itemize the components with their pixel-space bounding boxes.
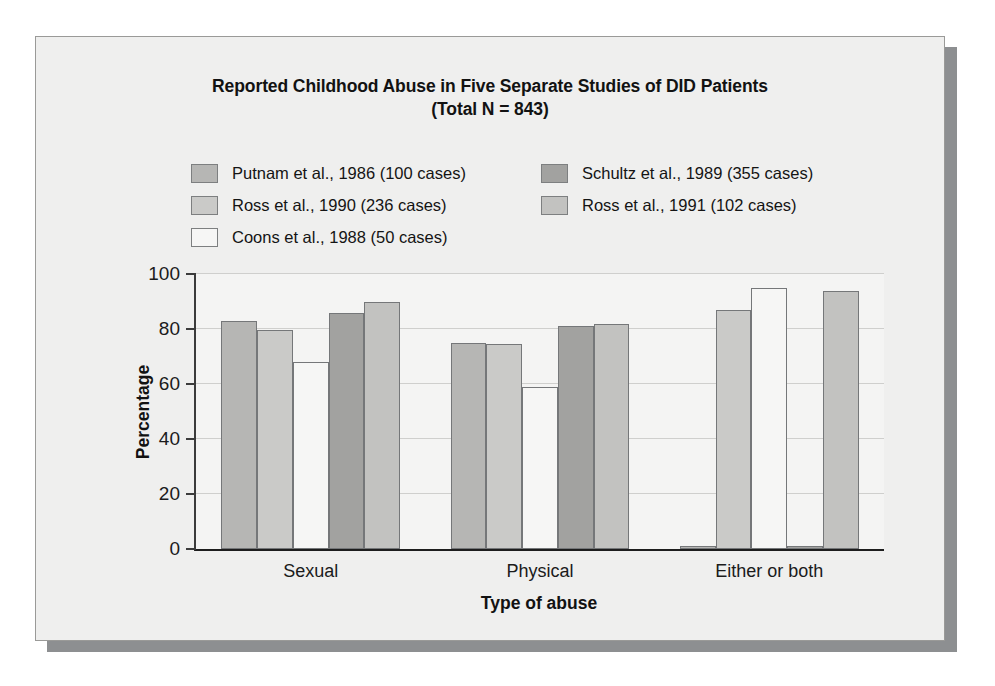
x-axis-group-label: Sexual xyxy=(196,561,425,582)
bar[interactable] xyxy=(680,546,716,549)
y-axis-tick xyxy=(186,438,196,441)
legend-swatch-icon xyxy=(191,228,218,247)
bar-group: Physical xyxy=(425,274,654,549)
bar[interactable] xyxy=(221,321,257,549)
plot-area: 020406080100 SexualPhysicalEither or bot… xyxy=(194,274,884,551)
bar[interactable] xyxy=(257,330,293,549)
y-axis-title: Percentage xyxy=(133,364,154,458)
y-axis-tick xyxy=(186,493,196,496)
chart-title: Reported Childhood Abuse in Five Separat… xyxy=(36,75,944,122)
bar[interactable] xyxy=(823,291,859,550)
legend-item[interactable]: Putnam et al., 1986 (100 cases) xyxy=(191,157,466,189)
legend-column-left: Putnam et al., 1986 (100 cases)Ross et a… xyxy=(191,157,466,253)
legend-column-right: Schultz et al., 1989 (355 cases)Ross et … xyxy=(541,157,813,221)
y-axis-tick-label: 20 xyxy=(159,483,180,505)
bar[interactable] xyxy=(716,310,752,549)
x-axis-group-label: Either or both xyxy=(655,561,884,582)
bar-groups: SexualPhysicalEither or both xyxy=(196,274,884,549)
legend-item[interactable]: Ross et al., 1990 (236 cases) xyxy=(191,189,466,221)
bar-group-bars xyxy=(680,274,859,549)
y-axis-tick-label: 100 xyxy=(148,263,180,285)
legend-item[interactable]: Coons et al., 1988 (50 cases) xyxy=(191,221,466,253)
x-axis-title: Type of abuse xyxy=(194,593,884,614)
bar[interactable] xyxy=(293,362,329,549)
legend-swatch-icon xyxy=(541,196,568,215)
legend-item-label: Schultz et al., 1989 (355 cases) xyxy=(582,164,813,183)
bar[interactable] xyxy=(486,344,522,549)
legend-swatch-icon xyxy=(541,164,568,183)
chart-title-line1: Reported Childhood Abuse in Five Separat… xyxy=(212,76,768,96)
legend-item[interactable]: Schultz et al., 1989 (355 cases) xyxy=(541,157,813,189)
legend-swatch-icon xyxy=(191,164,218,183)
plot-wrapper: 020406080100 SexualPhysicalEither or bot… xyxy=(159,274,884,551)
y-axis-tick xyxy=(186,273,196,276)
y-axis-tick xyxy=(186,383,196,386)
bar[interactable] xyxy=(451,343,487,549)
bar[interactable] xyxy=(751,288,787,549)
chart-title-line2: (Total N = 843) xyxy=(36,98,944,121)
legend-item-label: Putnam et al., 1986 (100 cases) xyxy=(232,164,466,183)
bar-group-bars xyxy=(221,274,400,549)
legend-item-label: Ross et al., 1991 (102 cases) xyxy=(582,196,797,215)
legend-swatch-icon xyxy=(191,196,218,215)
bar[interactable] xyxy=(594,324,630,550)
legend-item[interactable]: Ross et al., 1991 (102 cases) xyxy=(541,189,813,221)
x-axis-group-label: Physical xyxy=(425,561,654,582)
bar[interactable] xyxy=(522,387,558,549)
y-axis-tick-label: 80 xyxy=(159,318,180,340)
y-axis-tick-label: 40 xyxy=(159,428,180,450)
y-axis-tick-label: 0 xyxy=(169,538,180,560)
bar[interactable] xyxy=(787,546,823,549)
bar[interactable] xyxy=(364,302,400,550)
figure-panel: Reported Childhood Abuse in Five Separat… xyxy=(35,36,945,641)
bar[interactable] xyxy=(558,326,594,549)
bar-group-bars xyxy=(451,274,630,549)
legend-item-label: Coons et al., 1988 (50 cases) xyxy=(232,228,448,247)
bar-group: Either or both xyxy=(655,274,884,549)
y-axis-tick xyxy=(186,328,196,331)
bar-group: Sexual xyxy=(196,274,425,549)
legend-item-label: Ross et al., 1990 (236 cases) xyxy=(232,196,447,215)
y-axis-tick-label: 60 xyxy=(159,373,180,395)
y-axis-tick xyxy=(186,548,196,551)
figure-root: Reported Childhood Abuse in Five Separat… xyxy=(0,0,995,686)
bar[interactable] xyxy=(329,313,365,550)
